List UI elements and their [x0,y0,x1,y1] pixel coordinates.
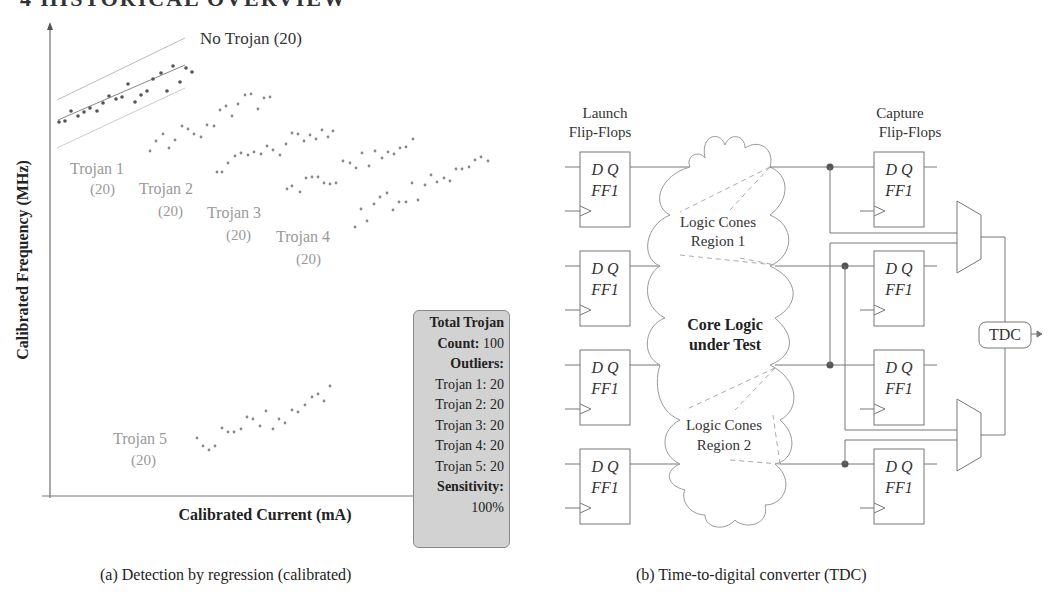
label-trojan-4: Trojan 4 [276,228,330,246]
stats-outlier-row: Trojan 1: 20 [414,375,504,396]
stats-outlier-row: Trojan 5: 20 [414,457,504,478]
launch-label-1: Launch [583,105,628,121]
figure-a-chart: No Trojan (20) Trojan 1 (20) Trojan 2 (2… [0,0,1063,605]
mux-2 [957,399,981,471]
stats-outliers-label: Outliers: [414,354,504,375]
label-trojan-4-count: (20) [296,251,321,268]
stats-count-value: 100 [483,336,504,351]
x-axis-label: Calibrated Current (mA) [178,506,351,524]
label-no-trojan: No Trojan (20) [200,29,302,48]
cone-1-label-1: Logic Cones [680,214,756,230]
launch-ff-3-pins: D Q [590,359,619,376]
regression-line [58,65,185,120]
launch-label-2: Flip-Flops [569,124,632,140]
stats-count-row: Count: 100 [414,334,504,355]
cone-1-label-2: Region 1 [691,233,746,249]
label-trojan-3-count: (20) [226,227,251,244]
launch-ff-1-name: FF1 [590,182,619,199]
stats-total-label: Total Trojan [414,313,504,334]
trojan-3-points [286,138,415,194]
stats-outlier-row: Trojan 4: 20 [414,436,504,457]
label-trojan-1-count: (20) [90,181,115,198]
y-axis-label: Calibrated Frequency (MHz) [14,160,32,360]
capture-ff-4-pins: D Q [884,458,913,475]
cone-2-label-1: Logic Cones [686,417,762,433]
figure-b-diagram [565,136,1042,527]
tdc-label: TDC [989,326,1021,343]
tdc-output-arrow-icon [1037,331,1042,337]
capture-ff-3-pins: D Q [884,359,913,376]
launch-ff-4-name: FF1 [590,479,619,496]
label-trojan-2-count: (20) [158,203,183,220]
capture-label-1: Capture [876,105,924,121]
capture-ff-4-name: FF1 [884,479,913,496]
stats-sensitivity-value: 100% [414,498,504,519]
capture-ff-2-pins: D Q [884,260,913,277]
cone-2-label-2: Region 2 [697,437,752,453]
label-trojan-1: Trojan 1 [70,160,124,178]
core-logic-label-1: Core Logic [687,316,763,334]
launch-ff-4-pins: D Q [590,458,619,475]
mux-1 [957,201,981,273]
label-trojan-5-count: (20) [131,452,156,469]
launch-ff-2-pins: D Q [590,260,619,277]
capture-label-2: Flip-Flops [879,124,942,140]
stats-box: Total Trojan Count: 100 Outliers: Trojan… [413,310,510,548]
label-trojan-5: Trojan 5 [113,430,167,448]
capture-ff-1-pins: D Q [884,161,913,178]
label-trojan-2: Trojan 2 [139,180,193,198]
launch-ff-1-pins: D Q [590,161,619,178]
launch-ff-3-name: FF1 [590,380,619,397]
trojan-4-points [354,156,490,229]
stats-count-label: Count: [437,336,479,351]
trojan-1-points [149,93,272,153]
launch-ff-2-name: FF1 [590,281,619,298]
stats-outlier-row: Trojan 2: 20 [414,395,504,416]
trojan-5-points [196,385,332,452]
figure-b-caption: (b) Time-to-digital converter (TDC) [636,566,867,584]
label-trojan-3: Trojan 3 [207,204,261,222]
capture-ff-3-name: FF1 [884,380,913,397]
y-axis-arrow-icon [47,22,53,30]
capture-ff-2-name: FF1 [884,281,913,298]
figure-a-caption: (a) Detection by regression (calibrated) [100,566,351,584]
capture-ff-1-name: FF1 [884,182,913,199]
core-logic-label-2: under Test [689,336,762,353]
trojan-2-points [216,129,335,174]
stats-outlier-row: Trojan 3: 20 [414,416,504,437]
stats-sensitivity-label: Sensitivity: [414,477,504,498]
